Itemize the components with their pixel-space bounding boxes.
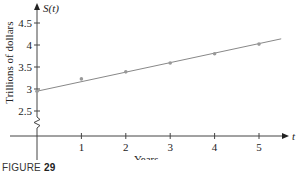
data-point xyxy=(213,52,217,56)
y-axis-arrow-icon xyxy=(34,3,40,10)
axis-break-icon xyxy=(34,117,40,128)
y-tick-label: 4 xyxy=(27,39,33,51)
data-point xyxy=(35,89,39,93)
y-tick-label: 4.5 xyxy=(18,17,32,29)
x-tick-label: 5 xyxy=(256,141,262,153)
x-axis-arrow-icon xyxy=(282,133,289,139)
data-point xyxy=(124,70,128,74)
caption-prefix: FIGURE xyxy=(2,162,41,173)
data-point xyxy=(80,77,84,81)
y-axis-title: Trillions of dollars xyxy=(3,22,15,104)
line-chart: S(t)t123452.533.544.5YearsTrillions of d… xyxy=(0,0,298,160)
caption-number: 29 xyxy=(44,162,56,173)
trend-line xyxy=(37,39,281,91)
x-axis-title: Years xyxy=(134,153,159,160)
y-axis-variable: S(t) xyxy=(43,2,59,15)
x-tick-label: 1 xyxy=(79,141,85,153)
y-tick-label: 2.5 xyxy=(18,105,32,117)
y-tick-label: 3.5 xyxy=(18,61,32,73)
data-point xyxy=(168,61,172,65)
x-tick-label: 3 xyxy=(167,141,173,153)
y-tick-label: 3 xyxy=(27,83,33,95)
data-point xyxy=(257,42,261,46)
plot-area xyxy=(35,39,281,93)
x-tick-label: 2 xyxy=(123,141,129,153)
axes: S(t)t123452.533.544.5YearsTrillions of d… xyxy=(3,2,296,160)
x-axis-variable: t xyxy=(292,130,296,142)
figure-caption: FIGURE 29 xyxy=(2,162,56,173)
x-tick-label: 4 xyxy=(212,141,218,153)
